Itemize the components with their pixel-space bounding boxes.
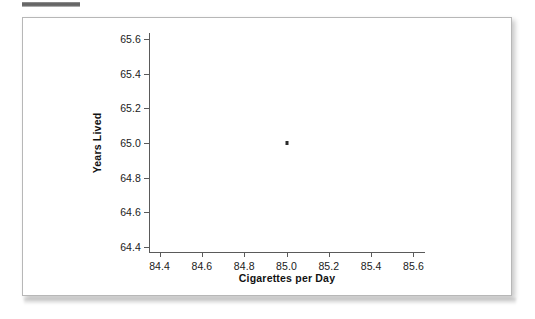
x-axis-tick-label: 85.2	[318, 260, 339, 272]
x-axis-tick-label: 85.6	[403, 260, 424, 272]
x-axis-tick	[371, 252, 372, 257]
x-axis-tick	[329, 252, 330, 257]
x-axis-tick	[202, 252, 203, 257]
figure-drop-shadow	[24, 298, 516, 305]
y-axis-tick	[144, 143, 149, 144]
x-axis-tick-label: 84.4	[149, 260, 170, 272]
y-axis-title: Years Lived	[91, 113, 103, 174]
y-axis-tick-label: 64.8	[120, 172, 141, 184]
x-axis-title: Cigarettes per Day	[149, 272, 425, 284]
x-axis-tick-label: 85.0	[276, 260, 297, 272]
data-point-marker	[285, 141, 288, 145]
x-axis-tick-label: 84.8	[234, 260, 255, 272]
y-axis-tick-label: 65.6	[120, 33, 141, 45]
y-axis-tick	[144, 247, 149, 248]
top-rule-artifact	[22, 2, 80, 7]
y-axis-tick	[144, 178, 149, 179]
y-axis-tick-label: 65.4	[120, 68, 141, 80]
x-axis-tick-label: 84.6	[191, 260, 212, 272]
y-axis-tick	[144, 74, 149, 75]
x-axis-tick	[413, 252, 414, 257]
y-axis-tick	[144, 39, 149, 40]
y-axis-tick	[144, 212, 149, 213]
y-axis-tick-label: 65.0	[120, 137, 141, 149]
x-axis-tick-label: 85.4	[361, 260, 382, 272]
y-axis-tick-label: 64.4	[120, 241, 141, 253]
y-axis-tick-label: 64.6	[120, 206, 141, 218]
x-axis-tick	[244, 252, 245, 257]
y-axis-tick	[144, 108, 149, 109]
x-axis-tick	[287, 252, 288, 257]
plot-area: 65.665.465.265.064.864.664.484.484.684.8…	[149, 34, 424, 252]
x-axis-tick	[160, 252, 161, 257]
y-axis-tick-label: 65.2	[120, 102, 141, 114]
